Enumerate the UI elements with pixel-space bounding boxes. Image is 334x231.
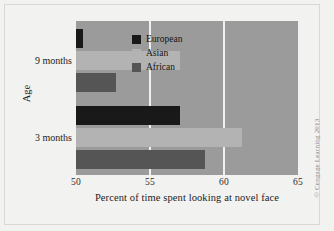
legend-item-african: African <box>132 61 218 74</box>
x-tick-label-65: 65 <box>283 177 313 187</box>
y-category-9-months: 9 months <box>35 55 72 66</box>
x-tick-label-60: 60 <box>209 177 239 187</box>
legend-label-african: African <box>146 63 175 73</box>
legend-item-asian: Asian <box>132 47 218 60</box>
legend: European Asian African <box>132 33 218 75</box>
x-tick-label-55: 55 <box>135 177 165 187</box>
bar-african-9-months <box>76 73 116 92</box>
y-category-3-months: 3 months <box>35 132 72 143</box>
legend-item-european: European <box>132 33 218 46</box>
chart-figure: 9 months 3 months Age 50556065 Percent o… <box>0 0 334 231</box>
bar-asian-3-months <box>76 128 242 147</box>
legend-label-european: European <box>146 35 182 45</box>
x-axis-title: Percent of time spent looking at novel f… <box>60 192 314 203</box>
bar-european-3-months <box>76 106 180 125</box>
bar-european-9-months <box>76 29 83 48</box>
legend-label-asian: Asian <box>146 49 168 59</box>
bar-african-3-months <box>76 150 205 169</box>
x-tick-label-50: 50 <box>61 177 91 187</box>
legend-swatch-icon-african <box>132 63 141 72</box>
copyright-credit: © Cengage Learning 2013 <box>313 110 321 206</box>
legend-swatch-icon-asian <box>132 49 141 58</box>
y-axis-title: Age <box>21 73 32 115</box>
legend-swatch-icon-european <box>132 35 141 44</box>
y-axis-category-labels: 9 months 3 months Age <box>14 0 72 190</box>
gridline-60 <box>223 21 225 175</box>
